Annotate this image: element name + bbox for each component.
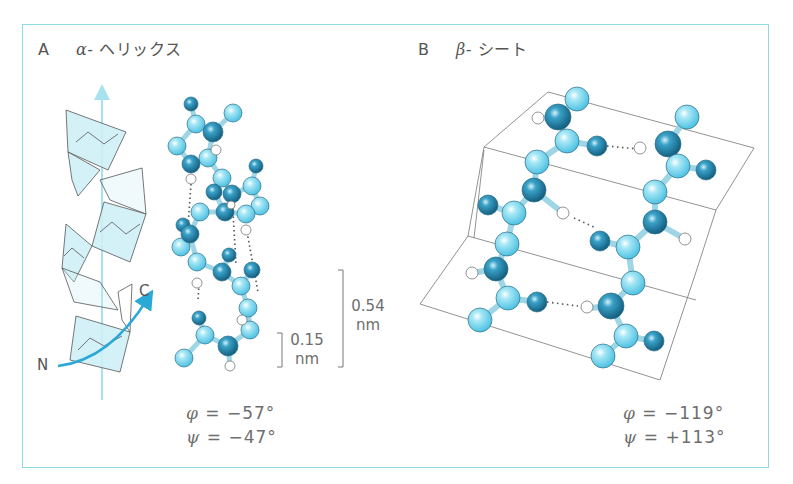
panel-a-psi: ψ = −47° <box>186 425 277 449</box>
scale-large-value: 0.54 <box>346 297 390 316</box>
scale-small-value: 0.15 <box>285 331 329 350</box>
panel-a-angles: φ = −57° ψ = −47° <box>186 401 277 449</box>
scale-small-unit: nm <box>285 350 329 369</box>
n-terminus-label: N <box>37 356 48 374</box>
beta-sheet-model <box>420 87 754 380</box>
helix-ball-stick-model <box>168 97 269 371</box>
panel-b-angles: φ = −119° ψ = +113° <box>623 401 726 449</box>
scale-small-label: 0.15 nm <box>285 331 329 369</box>
panel-b-psi: ψ = +113° <box>623 425 726 449</box>
panel-a-phi: φ = −57° <box>186 401 277 425</box>
scale-large-label: 0.54 nm <box>346 297 390 335</box>
panel-b-phi: φ = −119° <box>623 401 726 425</box>
helix-ribbon-diagram <box>58 92 148 400</box>
c-terminus-label: C <box>139 282 149 300</box>
scale-large-unit: nm <box>346 316 390 335</box>
